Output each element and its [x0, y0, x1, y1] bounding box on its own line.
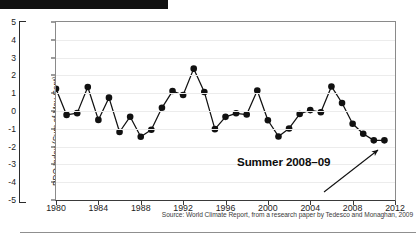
gridline [56, 75, 395, 76]
gridline [56, 111, 395, 112]
data-point-marker [63, 112, 70, 119]
data-point-marker [106, 94, 113, 101]
y-tick-label: 5 [0, 17, 16, 27]
gridline [56, 93, 395, 94]
data-point-marker [381, 137, 388, 144]
gridline [56, 129, 395, 130]
y-axis-label-wrapper: PDO Index (Sum of May-Sept) [28, 21, 42, 201]
data-point-marker [318, 109, 325, 116]
y-tick-label: -5 [0, 195, 16, 205]
data-point-marker [360, 130, 367, 137]
data-point-marker [371, 137, 378, 144]
y-tick-label: 1 [0, 88, 16, 98]
bottom-divider [20, 232, 416, 233]
y-tick-label: -2 [0, 142, 16, 152]
data-point-marker [201, 89, 208, 96]
y-tick-label: 4 [0, 35, 16, 45]
data-point-marker [190, 65, 197, 72]
data-point-marker [222, 114, 229, 121]
data-point-marker [84, 84, 91, 91]
y-tick-label: -3 [0, 159, 16, 169]
data-point-marker [95, 117, 102, 124]
y-tick-label: 3 [0, 53, 16, 63]
data-point-marker [339, 100, 346, 107]
y-tick-label: 0 [0, 106, 16, 116]
data-point-marker [137, 134, 144, 141]
gridline [56, 40, 395, 41]
data-point-marker [265, 117, 272, 124]
data-point-marker [56, 85, 59, 92]
y-tick-label: -4 [0, 177, 16, 187]
y-tick-label: -1 [0, 124, 16, 134]
data-point-marker [328, 83, 335, 90]
pdo-index-line-chart: PDO Index (Sum of May-Sept) 543210-1-2-3… [0, 0, 418, 241]
y-tick-label: 2 [0, 70, 16, 80]
annotation-arrow-icon [320, 144, 400, 196]
data-point-marker [127, 113, 134, 120]
y-axis-bracket [19, 21, 26, 203]
data-point-marker [349, 121, 356, 128]
source-note: Source: World Climate Report, from a res… [0, 211, 413, 218]
data-point-marker [243, 111, 250, 118]
annotation-label: Summer 2008–09 [237, 155, 330, 168]
data-point-marker [275, 133, 282, 140]
gridline [56, 58, 395, 59]
